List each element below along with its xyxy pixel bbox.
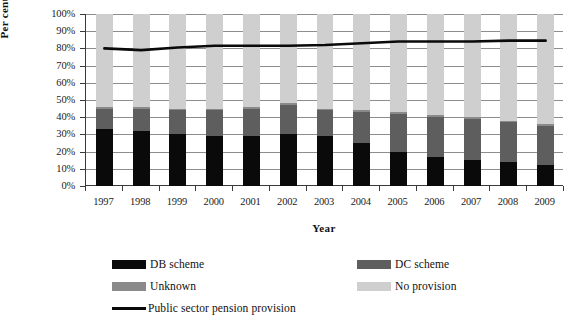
legend-swatch-no-provision: [357, 282, 391, 291]
legend-item-dc-scheme: DC scheme: [357, 258, 449, 270]
legend-item-unknown: Unknown: [112, 280, 196, 292]
y-tick-label: 10%: [19, 164, 75, 174]
x-tick-mark: [269, 186, 270, 191]
x-axis-title: Year: [85, 222, 563, 234]
x-tick-mark: [379, 186, 380, 191]
y-tick-label: 20%: [19, 147, 75, 157]
y-tick-mark: [80, 14, 85, 15]
y-tick-mark: [80, 134, 85, 135]
legend-row-2: Unknown No provision: [112, 280, 552, 302]
legend-label-unknown: Unknown: [150, 280, 196, 292]
plot-area: [85, 14, 563, 186]
y-tick-mark: [80, 152, 85, 153]
y-tick-label: 90%: [19, 26, 75, 36]
y-tick-label: 70%: [19, 61, 75, 71]
y-tick-label: 80%: [19, 43, 75, 53]
x-tick-mark: [159, 186, 160, 191]
y-tick-label: 60%: [19, 78, 75, 88]
y-tick-mark: [80, 48, 85, 49]
y-tick-mark: [80, 31, 85, 32]
legend-item-public-sector-pension-provision: Public sector pension provision: [112, 302, 296, 314]
y-tick-mark: [80, 66, 85, 67]
y-tick-mark: [80, 100, 85, 101]
x-tick-mark: [85, 186, 86, 191]
y-tick-label: 0%: [19, 181, 75, 191]
y-tick-label: 30%: [19, 129, 75, 139]
y-tick-label: 100%: [19, 9, 75, 19]
y-tick-label: 40%: [19, 112, 75, 122]
x-tick-mark: [232, 186, 233, 191]
legend-item-no-provision: No provision: [357, 280, 457, 292]
x-tick-label-2009: 2009: [522, 196, 564, 207]
legend-swatch-unknown: [112, 282, 146, 291]
public-sector-line-series: [86, 14, 564, 186]
legend-swatch-dc-scheme: [357, 260, 391, 269]
chart-legend: DB scheme DC scheme Unknown No provision…: [112, 258, 552, 324]
x-tick-mark: [306, 186, 307, 191]
y-tick-mark: [80, 83, 85, 84]
legend-item-db-scheme: DB scheme: [112, 258, 204, 270]
legend-label-dc-scheme: DC scheme: [395, 258, 449, 270]
legend-swatch-public-sector-line: [112, 307, 146, 310]
x-tick-mark: [342, 186, 343, 191]
x-tick-mark: [489, 186, 490, 191]
y-tick-mark: [80, 169, 85, 170]
x-tick-mark: [526, 186, 527, 191]
x-tick-mark: [122, 186, 123, 191]
legend-swatch-db-scheme: [112, 260, 146, 269]
y-tick-mark: [80, 117, 85, 118]
legend-label-no-provision: No provision: [395, 280, 457, 292]
legend-label-db-scheme: DB scheme: [150, 258, 204, 270]
y-tick-label: 50%: [19, 95, 75, 105]
y-axis-title: Per cent: [0, 0, 10, 78]
chart-figure: Per cent 0%10%20%30%40%50%60%70%80%90%10…: [0, 0, 564, 327]
x-tick-mark: [195, 186, 196, 191]
x-tick-mark: [453, 186, 454, 191]
x-tick-mark: [416, 186, 417, 191]
legend-label-public-sector-pension-provision: Public sector pension provision: [148, 302, 296, 314]
legend-row-1: DB scheme DC scheme: [112, 258, 552, 280]
legend-row-3: Public sector pension provision: [112, 302, 552, 324]
